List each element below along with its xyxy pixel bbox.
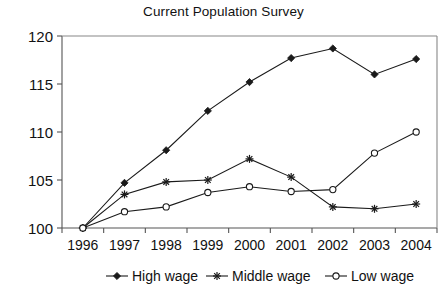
legend-label: Low wage: [351, 268, 414, 284]
data-point: [121, 209, 127, 215]
y-axis-tick-marks: [57, 36, 62, 228]
x-tick-label: 2001: [276, 237, 307, 253]
y-tick-label: 115: [29, 76, 53, 93]
data-point: [204, 176, 212, 184]
legend-label: Middle wage: [232, 268, 311, 284]
x-tick-label: 1999: [192, 237, 223, 253]
x-tick-label: 2003: [359, 237, 390, 253]
y-tick-label: 105: [28, 172, 53, 189]
series-middle-wage: [79, 155, 420, 232]
data-point: [371, 150, 377, 156]
data-point: [412, 200, 420, 208]
data-point: [162, 178, 170, 186]
x-axis-tick-marks: [62, 228, 437, 233]
legend-item-middle-wage[interactable]: Middle wage: [206, 268, 311, 284]
x-tick-label: 1998: [151, 237, 182, 253]
y-tick-label: 120: [28, 28, 53, 45]
x-tick-label: 1997: [109, 237, 140, 253]
legend-item-low-wage[interactable]: Low wage: [325, 268, 414, 284]
data-point: [330, 187, 336, 193]
y-tick-label: 110: [29, 124, 53, 141]
legend-marker: [333, 273, 339, 279]
series-high-wage: [79, 45, 420, 232]
data-point: [413, 129, 419, 135]
x-tick-label: 2000: [234, 237, 265, 253]
data-point: [80, 225, 86, 231]
series-line: [83, 132, 416, 228]
chart-legend: High wageMiddle wageLow wage: [106, 268, 414, 284]
data-point: [163, 204, 169, 210]
x-tick-label: 2002: [317, 237, 348, 253]
series-line: [83, 48, 416, 228]
data-point: [246, 184, 252, 190]
data-point: [371, 205, 379, 213]
x-axis-tick-labels: 199619971998199920002001200220032004: [67, 237, 432, 253]
data-series-layer: [79, 45, 420, 232]
x-tick-label: 1996: [67, 237, 98, 253]
data-point: [288, 54, 295, 61]
data-point: [329, 203, 337, 211]
y-axis-tick-labels: 100105110115120: [28, 28, 53, 237]
data-point: [246, 155, 254, 163]
series-low-wage: [80, 129, 420, 231]
legend-marker: [113, 272, 120, 279]
series-line: [83, 159, 416, 228]
data-point: [246, 78, 253, 85]
data-point: [288, 188, 294, 194]
data-point: [121, 190, 129, 198]
chart-container: Current Population Survey 10010511011512…: [0, 0, 447, 295]
legend-marker: [213, 272, 221, 280]
chart-plot: 100105110115120 199619971998199920002001…: [0, 0, 447, 295]
data-point: [287, 173, 295, 181]
legend-item-high-wage[interactable]: High wage: [106, 268, 198, 284]
data-point: [371, 71, 378, 78]
legend-label: High wage: [132, 268, 198, 284]
data-point: [413, 55, 420, 62]
x-tick-label: 2004: [401, 237, 432, 253]
data-point: [329, 45, 336, 52]
data-point: [205, 189, 211, 195]
y-tick-label: 100: [28, 220, 53, 237]
